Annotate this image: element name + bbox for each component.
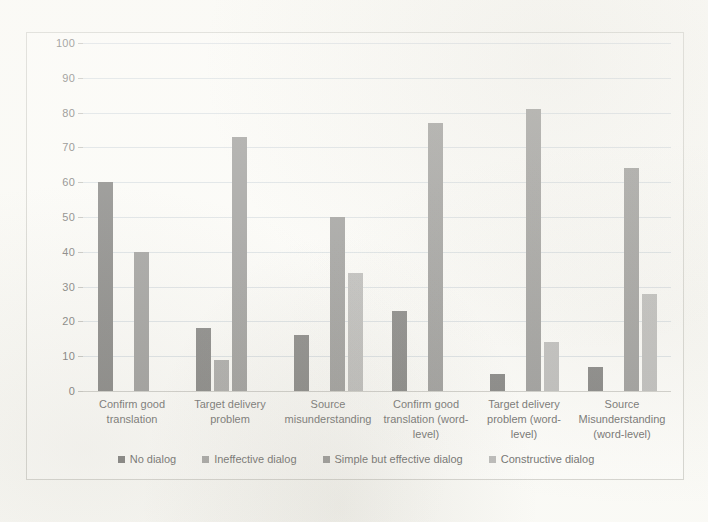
bar-slot (232, 43, 247, 391)
category-label: Source misunderstanding (279, 397, 377, 442)
bar[interactable] (348, 273, 363, 391)
y-axis-tick-label: 80 (62, 107, 75, 119)
y-axis-tick-label: 40 (62, 246, 75, 258)
bar[interactable] (624, 168, 639, 391)
bar[interactable] (294, 335, 309, 391)
legend-item[interactable]: Ineffective dialog (202, 453, 296, 465)
bar-slot (526, 43, 541, 391)
bar-slot (588, 43, 603, 391)
bar-slot (330, 43, 345, 391)
bar[interactable] (544, 342, 559, 391)
bar-slot (508, 43, 523, 391)
y-axis: 1009080706050403020100 (37, 43, 75, 391)
category-label: Target delivery problem (word-level) (475, 397, 573, 442)
y-axis-tick-label: 90 (62, 72, 75, 84)
bar[interactable] (526, 109, 541, 391)
y-axis-tick-label: 30 (62, 281, 75, 293)
bar-slot (196, 43, 211, 391)
legend-item[interactable]: Simple but effective dialog (323, 453, 463, 465)
axis-baseline (83, 391, 671, 392)
legend-swatch-icon (489, 456, 496, 463)
bar-slot (312, 43, 327, 391)
bar[interactable] (134, 252, 149, 391)
bar-slot (490, 43, 505, 391)
bar-group (279, 43, 377, 391)
bar-slot (428, 43, 443, 391)
bar-slot (294, 43, 309, 391)
bar[interactable] (214, 360, 229, 391)
category-axis-labels: Confirm good translationTarget delivery … (83, 397, 671, 442)
bar-slot (134, 43, 149, 391)
bar[interactable] (642, 294, 657, 391)
legend-swatch-icon (202, 456, 209, 463)
bar-slot (642, 43, 657, 391)
bar[interactable] (330, 217, 345, 391)
bar[interactable] (196, 328, 211, 391)
category-label: Confirm good translation (word-level) (377, 397, 475, 442)
legend-item[interactable]: No dialog (118, 453, 176, 465)
legend-swatch-icon (323, 456, 330, 463)
legend-label: Constructive dialog (501, 453, 595, 465)
bar[interactable] (588, 367, 603, 391)
y-axis-tick-label: 20 (62, 315, 75, 327)
category-label: Confirm good translation (83, 397, 181, 442)
category-label: Source Misunderstanding (word-level) (573, 397, 671, 442)
y-axis-tick-label: 10 (62, 350, 75, 362)
plot-area (83, 43, 671, 391)
category-label: Target delivery problem (181, 397, 279, 442)
legend-label: No dialog (130, 453, 176, 465)
bar-slot (116, 43, 131, 391)
bar[interactable] (428, 123, 443, 391)
legend-label: Simple but effective dialog (335, 453, 463, 465)
bar[interactable] (490, 374, 505, 391)
bar-slot (348, 43, 363, 391)
legend-swatch-icon (118, 456, 125, 463)
bar-group (475, 43, 573, 391)
chart-frame: 1009080706050403020100 Confirm good tran… (26, 32, 684, 480)
legend-item[interactable]: Constructive dialog (489, 453, 595, 465)
bar-slot (98, 43, 113, 391)
y-axis-tick-label: 60 (62, 176, 75, 188)
bar-slot (214, 43, 229, 391)
bar[interactable] (392, 311, 407, 391)
bar[interactable] (232, 137, 247, 391)
bar-slot (392, 43, 407, 391)
bar-slot (606, 43, 621, 391)
bar-slot (410, 43, 425, 391)
bar-group (83, 43, 181, 391)
bar-slot (544, 43, 559, 391)
y-axis-tick-mark (78, 391, 83, 392)
plot-wrapper: 1009080706050403020100 Confirm good tran… (27, 33, 685, 481)
bar-group (377, 43, 475, 391)
bar-slot (624, 43, 639, 391)
y-axis-tick-label: 50 (62, 211, 75, 223)
y-axis-tick-label: 70 (62, 141, 75, 153)
bar-group (181, 43, 279, 391)
legend-label: Ineffective dialog (214, 453, 296, 465)
bar-slot (152, 43, 167, 391)
bar-slot (250, 43, 265, 391)
y-axis-tick-label: 100 (56, 37, 75, 49)
bar-slot (446, 43, 461, 391)
bar[interactable] (98, 182, 113, 391)
bar-group (573, 43, 671, 391)
chart-legend: No dialogIneffective dialogSimple but ef… (27, 453, 685, 465)
bar-groups (83, 43, 671, 391)
y-axis-tick-label: 0 (69, 385, 75, 397)
